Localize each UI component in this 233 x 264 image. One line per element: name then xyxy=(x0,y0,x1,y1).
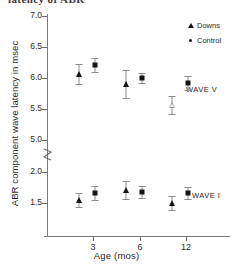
y-tick xyxy=(42,78,47,79)
circle-marker-icon xyxy=(140,76,145,81)
circle-marker-icon xyxy=(186,39,195,43)
error-bar-cap xyxy=(92,186,99,187)
x-axis-line xyxy=(44,236,230,237)
error-bar-cap xyxy=(169,196,176,197)
error-bar-cap xyxy=(92,72,99,73)
error-bar-cap xyxy=(76,64,83,65)
error-bar-cap xyxy=(76,207,83,208)
error-bar-cap xyxy=(169,210,176,211)
error-bar-cap xyxy=(123,199,130,200)
y-axis-title: ABR component wave latency in msec xyxy=(9,34,20,214)
y-tick-label: 1.5 xyxy=(16,198,42,207)
data-point xyxy=(184,83,193,84)
y-tick xyxy=(42,203,47,204)
data-point xyxy=(122,84,131,85)
circle-marker-icon xyxy=(186,81,191,86)
legend-item-downs: Downs xyxy=(186,20,221,31)
data-point xyxy=(168,203,177,204)
error-bar-cap xyxy=(169,114,176,115)
data-point xyxy=(138,192,147,193)
y-tick-label: 5.5 xyxy=(16,104,42,113)
y-tick-label: 5.0 xyxy=(16,135,42,144)
data-point xyxy=(138,78,147,79)
data-point xyxy=(122,190,131,191)
x-tick xyxy=(186,236,187,241)
abr-latency-scatter-chart: latency of ABR 7.06.56.05.55.02.01.5 361… xyxy=(0,0,233,264)
error-bar-cap xyxy=(185,187,192,188)
y-tick-label: 7.0 xyxy=(16,11,42,20)
circle-marker-icon xyxy=(186,191,191,196)
error-bar-cap xyxy=(123,181,130,182)
circle-marker-icon xyxy=(93,191,98,196)
y-tick-label: 2.0 xyxy=(16,167,42,176)
triangle-marker-icon xyxy=(123,187,129,193)
data-point xyxy=(75,74,84,75)
data-point xyxy=(75,200,84,201)
data-point xyxy=(168,105,177,106)
circle-marker-icon xyxy=(140,190,145,195)
y-axis-line xyxy=(47,14,48,236)
error-bar-cap xyxy=(92,58,99,59)
error-bar-cap xyxy=(139,198,146,199)
y-tick xyxy=(42,47,47,48)
triangle-marker-icon xyxy=(123,81,129,87)
x-tick xyxy=(140,236,141,241)
y-tick xyxy=(42,172,47,173)
error-bar-cap xyxy=(185,76,192,77)
triangle-marker-icon xyxy=(76,71,82,77)
y-tick xyxy=(42,140,47,141)
triangle-marker-icon xyxy=(169,102,175,108)
y-tick xyxy=(42,16,47,17)
y-tick-label: 6.0 xyxy=(16,73,42,82)
legend-item-control: Control xyxy=(186,35,221,46)
error-bar-cap xyxy=(139,83,146,84)
error-bar-cap xyxy=(76,84,83,85)
error-bar-cap xyxy=(169,96,176,97)
error-bar-cap xyxy=(123,98,130,99)
series-annotation-wave-i: WAVE I xyxy=(192,192,220,200)
error-bar-cap xyxy=(123,70,130,71)
data-point xyxy=(184,193,193,194)
error-bar-cap xyxy=(185,199,192,200)
circle-marker-icon xyxy=(93,63,98,68)
x-tick xyxy=(93,236,94,241)
legend-label-control: Control xyxy=(197,37,221,45)
x-axis-title: Age (mos) xyxy=(0,250,233,261)
data-point xyxy=(91,193,100,194)
error-bar-cap xyxy=(76,193,83,194)
error-bar-cap xyxy=(139,186,146,187)
legend-label-downs: Downs xyxy=(197,22,220,30)
triangle-marker-icon xyxy=(76,197,82,203)
chart-legend: Downs Control xyxy=(186,20,221,50)
triangle-marker-icon xyxy=(169,200,175,206)
y-tick-label: 6.5 xyxy=(16,42,42,51)
axis-break-marker xyxy=(41,148,54,164)
triangle-marker-icon xyxy=(186,23,195,28)
clipped-caption-fragment: latency of ABR xyxy=(8,0,84,5)
error-bar-cap xyxy=(185,90,192,91)
y-tick xyxy=(42,109,47,110)
error-bar-cap xyxy=(92,200,99,201)
error-bar-cap xyxy=(139,73,146,74)
data-point xyxy=(91,65,100,66)
